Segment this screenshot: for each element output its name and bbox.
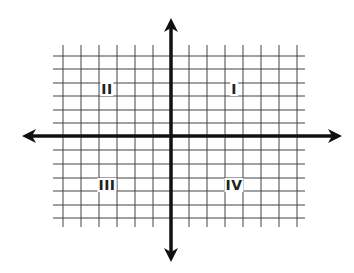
quadrant-label-i: I [230, 82, 238, 96]
quadrant-label-ii: II [100, 82, 113, 96]
quadrant-label-iii: III [97, 178, 116, 192]
coordinate-plane [0, 0, 354, 273]
quadrant-label-iv: IV [224, 178, 243, 192]
axes [22, 18, 342, 262]
